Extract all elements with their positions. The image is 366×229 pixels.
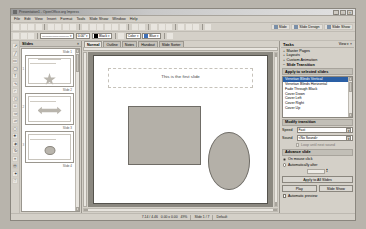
slide-thumbnail-1[interactable] [25,55,74,87]
redo-icon[interactable] [139,24,145,30]
zoom-icon[interactable] [193,24,199,30]
curve-icon[interactable]: ∿ [12,81,18,87]
transition-option-cover-up[interactable]: Cover Up [283,106,348,111]
fill-style-icon[interactable] [118,33,124,39]
cut-icon[interactable] [97,24,103,30]
advance-time-spinner[interactable]: ▲ ▼ [281,169,354,175]
apply-to-all-slides-button[interactable]: Apply to All Slides [282,176,353,183]
menu-item-insert[interactable]: Insert [47,17,57,21]
slides-scrollbar[interactable] [75,49,79,211]
slide-page[interactable]: This is the first slide [93,55,269,204]
play-button[interactable]: Play [282,185,317,192]
loop-until-next-sound-checkbox[interactable]: Loop until next sound [296,143,352,147]
shadow-icon[interactable] [167,33,173,39]
chart-icon[interactable] [151,24,157,30]
slide-thumbnail-3[interactable] [25,131,74,163]
menu-item-window[interactable]: Window [112,17,126,21]
slides-thumbnail-list[interactable]: Slide 1 1 Slide 2 2 [21,48,80,212]
rectangle-shape[interactable] [128,106,201,165]
scroll-up-button[interactable] [349,77,352,81]
menu-item-slideshow[interactable]: Slide Show [89,17,108,21]
arrow-style-icon[interactable] [21,33,27,39]
scroll-down-button[interactable] [349,113,352,117]
slide-title-text[interactable]: This is the first slide [94,74,268,79]
flowchart-icon[interactable]: ▱ [12,118,18,124]
rotate-icon[interactable]: ↻ [12,148,18,154]
3d-objects-icon[interactable]: ◈ [12,141,18,147]
print-icon[interactable] [63,24,69,30]
list-item[interactable]: 2 [25,93,74,125]
line-icon[interactable]: ╱ [12,51,18,57]
interaction-icon[interactable]: ☞ [12,178,18,184]
undo-icon[interactable] [132,24,138,30]
slide-design-button[interactable]: Slide Design [291,24,322,30]
ellipse-icon[interactable]: ◯ [12,66,18,72]
accordion-slide-transition[interactable]: − Slide Transition [283,62,352,67]
image-icon[interactable] [166,24,172,30]
spelling-icon[interactable] [82,24,88,30]
arrange-icon[interactable]: ▤ [12,163,18,169]
scrollbar-track[interactable] [88,209,273,211]
slide-show-button[interactable]: Slide Show [319,185,354,192]
list-item[interactable]: 3 [25,131,74,163]
edit-file-icon[interactable] [48,24,54,30]
fill-color-select[interactable]: Blue ▾ [142,33,161,39]
basic-shapes-icon[interactable]: ◻ [12,96,18,102]
line-properties-icon[interactable] [13,33,19,39]
spinner-arrows[interactable]: ▲ ▼ [326,169,328,174]
menu-item-format[interactable]: Format [60,17,72,21]
scroll-down-button[interactable] [275,202,277,206]
line-style-select[interactable]: ———————— ▾ [40,33,74,39]
sound-select[interactable]: <No Sound> ▾ [297,135,354,141]
open-icon[interactable] [21,24,27,30]
slide-button[interactable]: Slide [271,24,290,30]
close-icon[interactable]: × [77,42,79,46]
table-icon[interactable] [159,24,165,30]
scrollbar-track[interactable] [275,57,277,202]
list-item[interactable]: 1 [25,55,74,87]
symbol-shapes-icon[interactable]: ☺ [12,103,18,109]
print-preview-icon[interactable] [70,24,76,30]
connector-icon[interactable]: ⌐ [12,88,18,94]
rectangle-icon[interactable]: ▭ [12,58,18,64]
display-grid-icon[interactable] [178,24,184,30]
scrollbar-thumb[interactable] [349,82,352,92]
fill-style-select[interactable]: Color ▾ [126,33,141,39]
slide-thumbnail-2[interactable] [25,93,74,125]
minimize-button[interactable]: _ [333,10,339,15]
effects-icon[interactable]: ✦ [12,171,18,177]
align-icon[interactable]: ≡ [12,156,18,162]
paste-icon[interactable] [112,24,118,30]
transition-list[interactable]: Venetian Blinds Vertical Venetian Blinds… [282,76,353,118]
spin-down-icon[interactable]: ▼ [326,171,328,174]
select-icon[interactable]: ➚ [12,43,18,49]
slide-show-button[interactable]: Slide Show [324,24,353,30]
stars-icon[interactable]: ★ [12,133,18,139]
speed-select[interactable]: Fast ▾ [297,127,354,133]
menu-item-view[interactable]: View [35,17,43,21]
scrollbar-track[interactable] [349,93,352,113]
automatic-preview-checkbox[interactable]: Automatic preview [283,194,352,198]
close-button[interactable]: × [347,10,353,15]
export-pdf-icon[interactable] [55,24,61,30]
advance-on-click-radio[interactable]: On mouse click [283,157,352,161]
line-color-select[interactable]: Black ▾ [92,33,112,39]
callout-icon[interactable]: ▢ [12,126,18,132]
line-width-field[interactable]: 0.00" ▾ [76,33,91,39]
help-icon[interactable] [205,24,211,30]
advance-automatically-radio[interactable]: Automatically after [283,163,352,167]
close-icon[interactable]: × [350,42,352,46]
block-arrows-icon[interactable]: ⇨ [12,111,18,117]
autospell-icon[interactable] [90,24,96,30]
canvas-vertical-scrollbar[interactable] [274,52,278,207]
menu-item-tools[interactable]: Tools [76,17,85,21]
area-style-icon[interactable] [28,33,34,39]
text-icon[interactable]: T [12,73,18,79]
scroll-up-button[interactable] [76,49,79,53]
scrollbar-thumb[interactable] [76,54,79,72]
scroll-right-button[interactable] [273,209,277,211]
ellipse-shape[interactable] [208,132,250,189]
email-icon[interactable] [36,24,42,30]
tasks-view-menu[interactable]: View ▾ × [339,42,352,46]
menu-item-edit[interactable]: Edit [24,17,31,21]
